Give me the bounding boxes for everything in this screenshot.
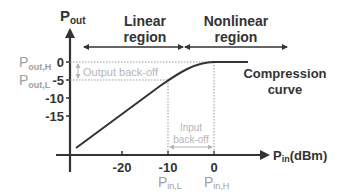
pout-l-label: Pout,L <box>19 72 51 90</box>
input-backoff-label-line1: Input <box>180 122 202 133</box>
pin-l-label: Pin,L <box>158 174 182 191</box>
linear-label-line1: Linear <box>124 13 167 29</box>
y-tick-m5: -5 <box>52 73 64 88</box>
pin-h-label: Pin,H <box>204 174 229 191</box>
x-tick-m20: -20 <box>113 160 132 175</box>
linear-label-line2: region <box>124 29 167 45</box>
y-tick-0: 0 <box>57 55 64 70</box>
x-tick-m10: -10 <box>159 160 178 175</box>
x-axis-title: Pin(dBm) <box>273 148 327 164</box>
nonlinear-label-line1: Nonlinear <box>204 13 269 29</box>
pout-h-label: Pout,H <box>19 54 51 72</box>
nonlinear-label-line2: region <box>215 29 258 45</box>
y-tick-m15: -15 <box>45 109 64 124</box>
y-axis-title: Pout <box>60 7 86 26</box>
x-tick-0: 0 <box>210 160 217 175</box>
output-backoff-label: Output back-off <box>83 66 159 78</box>
compression-label-line2: curve <box>268 82 303 97</box>
y-tick-m10: -10 <box>45 91 64 106</box>
compression-label-line1: Compression <box>243 66 326 81</box>
input-backoff-label-line2: back-off <box>173 134 209 145</box>
compression-chart: Pout Pin(dBm) Linear region Nonlinear re… <box>0 0 355 194</box>
